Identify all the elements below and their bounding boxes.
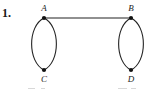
vertex-b-dot [129,16,133,20]
figure-page: 1. A B C D [0,0,157,91]
graph-diagram: 1. A B C D [0,0,157,91]
edge-b-d-right-arc [131,18,143,70]
edge-a-c-right-arc [44,18,56,70]
vertex-c-dot [42,68,46,72]
vertex-label-a: A [40,3,47,13]
scan-artifact-right-2 [131,88,136,89]
problem-number-label: 1. [2,6,11,20]
edge-b-d-left-arc [119,18,131,70]
vertex-label-c: C [41,74,48,84]
scan-artifact-left-2 [41,88,45,89]
vertex-a-dot [42,16,46,20]
scan-artifact-left [28,88,35,89]
vertex-label-b: B [128,3,134,13]
scan-artifact-right [118,88,127,89]
edge-a-c-left-arc [32,18,44,70]
vertex-label-d: D [127,74,135,84]
vertex-d-dot [129,68,133,72]
